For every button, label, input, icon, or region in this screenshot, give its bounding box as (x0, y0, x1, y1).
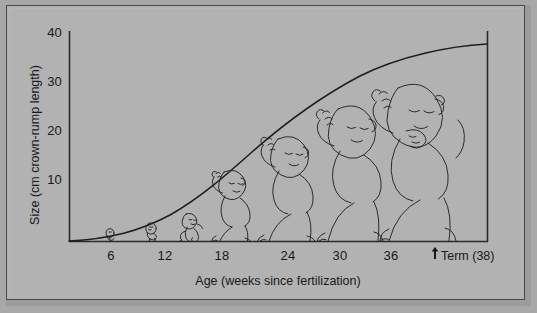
term-label: Term (38) (441, 249, 494, 263)
fetus-38-weeks (372, 84, 465, 241)
growth-chart-svg (0, 0, 537, 313)
x-tick-18: 18 (207, 248, 237, 263)
embryo-6-weeks (106, 229, 114, 241)
figure-screenshot: 40 30 20 10 6 12 18 24 30 36 Term (38) S… (0, 0, 537, 313)
y-tick-40: 40 (36, 25, 62, 40)
growth-curve (69, 44, 487, 241)
fetus-20-weeks (257, 137, 314, 242)
x-tick-36: 36 (376, 248, 406, 263)
x-tick-24: 24 (273, 248, 303, 263)
term-up-arrow-icon (430, 246, 440, 260)
x-tick-12: 12 (150, 248, 180, 263)
fetal-illustrations (106, 84, 464, 242)
x-axis-title: Age (weeks since fertilization) (68, 274, 488, 288)
x-tick-30: 30 (325, 248, 355, 263)
fetus-26-weeks (316, 106, 383, 241)
fetus-12-weeks (179, 213, 203, 242)
x-tick-6: 6 (96, 248, 126, 263)
y-axis-title: Size (cm crown-rump length) (28, 50, 42, 240)
